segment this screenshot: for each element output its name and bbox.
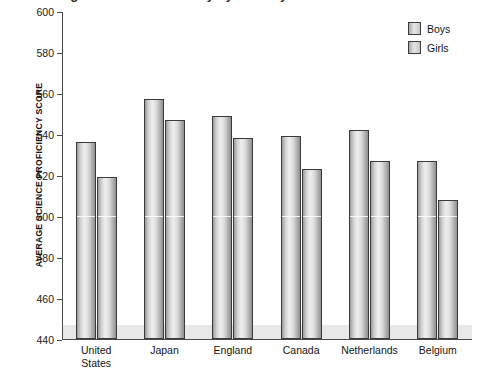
y-tick-mark: [57, 340, 62, 341]
bar-boys[interactable]: [417, 161, 437, 339]
y-tick-mark: [57, 12, 62, 13]
legend-swatch-icon: [408, 41, 421, 54]
x-axis-label: United States: [81, 344, 111, 370]
x-axis-line: [62, 339, 472, 340]
y-tick-label: 440: [36, 334, 54, 346]
y-tick-mark: [57, 258, 62, 259]
plot-area: 600580560540520500480460440: [62, 12, 472, 340]
y-tick-mark: [57, 135, 62, 136]
y-tick-mark: [57, 94, 62, 95]
chart-page: Average Science Proficiency by Country A…: [0, 0, 480, 374]
bar-girls[interactable]: [302, 169, 322, 339]
bar-boys[interactable]: [76, 142, 96, 339]
legend-label: Boys: [427, 23, 450, 35]
bar-girls[interactable]: [438, 200, 458, 339]
y-tick-mark: [57, 299, 62, 300]
y-tick-label: 460: [36, 293, 54, 305]
bar-girls[interactable]: [233, 138, 253, 339]
bar-girls[interactable]: [165, 120, 185, 339]
y-tick-mark: [57, 53, 62, 54]
y-tick-mark: [57, 176, 62, 177]
legend: BoysGirls: [408, 20, 450, 58]
baseline-band: [63, 325, 472, 339]
y-tick-label: 560: [36, 88, 54, 100]
bar-boys[interactable]: [281, 136, 301, 339]
x-axis-label: Canada: [283, 344, 320, 357]
bar-group: [76, 142, 117, 339]
legend-item-boys[interactable]: Boys: [408, 20, 450, 37]
bar-group: [212, 116, 253, 339]
y-tick-label: 520: [36, 170, 54, 182]
bar-group: [349, 130, 390, 339]
y-tick-label: 600: [36, 6, 54, 18]
bar-group: [144, 99, 185, 339]
bar-girls[interactable]: [97, 177, 117, 339]
y-tick-label: 500: [36, 211, 54, 223]
legend-item-girls[interactable]: Girls: [408, 39, 450, 56]
bar-girls[interactable]: [370, 161, 390, 339]
legend-label: Girls: [427, 42, 449, 54]
y-tick-label: 580: [36, 47, 54, 59]
y-axis-line: [62, 12, 63, 340]
y-tick-label: 540: [36, 129, 54, 141]
bar-boys[interactable]: [349, 130, 369, 339]
bar-boys[interactable]: [212, 116, 232, 339]
x-axis-label: Belgium: [419, 344, 457, 357]
bar-boys[interactable]: [144, 99, 164, 339]
chart-title: Average Science Proficiency by Country: [34, 0, 287, 2]
x-axis-label: Japan: [150, 344, 179, 357]
y-tick-label: 480: [36, 252, 54, 264]
bar-group: [417, 161, 458, 339]
x-axis-label: England: [214, 344, 253, 357]
y-tick-mark: [57, 217, 62, 218]
x-axis-label: Netherlands: [341, 344, 398, 357]
bar-group: [281, 136, 322, 339]
legend-swatch-icon: [408, 22, 421, 35]
